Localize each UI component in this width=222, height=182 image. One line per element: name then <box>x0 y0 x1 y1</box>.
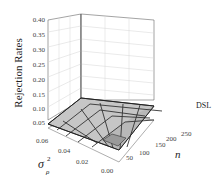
svg-text:0.35: 0.35 <box>33 31 46 39</box>
svg-text:ρ: ρ <box>45 168 50 176</box>
svg-text:0.05: 0.05 <box>33 119 46 127</box>
svg-text:0.30: 0.30 <box>33 46 46 54</box>
n-axis-label: n <box>175 148 181 160</box>
svg-text:0.25: 0.25 <box>33 61 46 69</box>
svg-text:0.06: 0.06 <box>36 137 49 145</box>
sigma-axis-label: σ 2 ρ <box>38 155 51 176</box>
svg-text:0.02: 0.02 <box>76 158 89 166</box>
svg-text:0.40: 0.40 <box>33 16 46 24</box>
svg-text:50: 50 <box>126 154 134 162</box>
svg-text:0.00: 0.00 <box>101 167 114 175</box>
svg-text:0.04: 0.04 <box>58 147 71 155</box>
svg-text:0.15: 0.15 <box>33 91 46 99</box>
svg-text:100: 100 <box>139 149 150 157</box>
svg-text:200: 200 <box>166 135 177 143</box>
svg-text:150: 150 <box>155 141 166 149</box>
surface-chart: 0.40 0.35 0.30 0.25 0.20 0.15 0.10 0.05 … <box>0 0 222 182</box>
svg-text:σ: σ <box>38 157 45 171</box>
svg-text:250: 250 <box>181 130 192 138</box>
series-label: DSL <box>196 101 211 110</box>
svg-text:0.10: 0.10 <box>33 105 46 113</box>
z-axis-ticks: 0.40 0.35 0.30 0.25 0.20 0.15 0.10 0.05 <box>33 16 46 127</box>
n-axis-ticks: 50 100 150 200 250 <box>126 130 192 162</box>
z-axis-label: Rejection Rates <box>12 38 24 107</box>
svg-text:2: 2 <box>47 155 51 163</box>
svg-text:0.20: 0.20 <box>33 76 46 84</box>
